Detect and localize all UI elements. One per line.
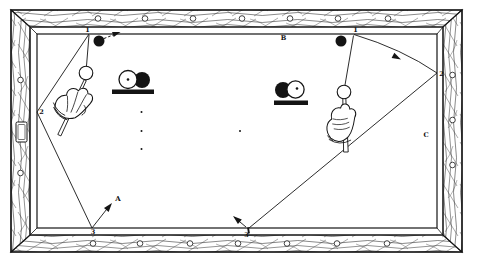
rail-sight xyxy=(187,241,193,247)
rail-sight xyxy=(287,16,293,22)
rail-sight xyxy=(190,16,196,22)
label-left-point-2: 2 xyxy=(39,108,44,116)
object-ball-left xyxy=(94,36,105,47)
rail-sight xyxy=(450,117,456,123)
label-left-point-3: 3 xyxy=(91,228,96,236)
curve-line-1-to-2 xyxy=(354,35,437,74)
rail-nameplate xyxy=(16,122,27,142)
rail-sight xyxy=(90,241,96,247)
frame-outer-edge xyxy=(11,10,462,252)
label-right-point-2: 2 xyxy=(439,70,444,78)
ball-contact-inset-right xyxy=(274,81,308,105)
billiards-diagram-page: 1 2 3 A B 1 2 3 C xyxy=(0,0,479,264)
spot-dot xyxy=(141,130,143,132)
label-target-A: A xyxy=(114,194,121,203)
rail-sight xyxy=(450,162,456,168)
right-rail xyxy=(443,10,462,252)
rail-sight xyxy=(335,16,341,22)
rail-sight xyxy=(235,241,241,247)
rail-sight xyxy=(385,16,391,22)
bridge-hand-left-icon xyxy=(49,79,95,126)
table-spots xyxy=(141,111,242,150)
inset-shelf xyxy=(274,101,308,106)
arrowhead xyxy=(392,53,403,62)
rail-sight xyxy=(384,241,390,247)
cue-ball-right xyxy=(337,85,351,99)
label-side-C: C xyxy=(423,131,428,139)
shot-line-cueball-to-cushion xyxy=(345,36,354,86)
label-right-point-3: 3 xyxy=(244,231,249,239)
label-right-point-1: 1 xyxy=(353,26,358,34)
diagram-labels: 1 2 3 A B 1 2 3 C xyxy=(39,26,444,239)
billiard-table-figure: 1 2 3 A B 1 2 3 C xyxy=(0,0,479,264)
rail-sight xyxy=(18,77,24,83)
inset-shelf xyxy=(112,90,154,95)
rail-sight xyxy=(284,241,290,247)
top-rail xyxy=(11,10,462,27)
cushion-corner-miters xyxy=(30,27,443,235)
object-ball-right xyxy=(336,36,347,47)
cue-ball-left xyxy=(79,66,93,80)
bridge-hand-right-icon xyxy=(324,103,358,145)
spot-dot xyxy=(239,130,241,132)
rail-sight xyxy=(142,16,148,22)
rail-sight xyxy=(18,170,24,176)
rail-sight xyxy=(450,72,456,78)
inset-white-ball-dot xyxy=(127,78,130,81)
rail-sight xyxy=(239,16,245,22)
label-shot-B: B xyxy=(281,34,287,42)
rail-sights xyxy=(16,16,455,247)
cushion-band xyxy=(30,27,443,235)
trajectory-left-shot xyxy=(37,30,121,228)
rebound-line-2-to-3 xyxy=(37,112,92,228)
spot-dot xyxy=(141,111,143,113)
balls xyxy=(79,36,351,99)
arrowhead xyxy=(112,30,121,37)
table-frame xyxy=(11,10,462,252)
rail-sight xyxy=(334,241,340,247)
ball-contact-inset-left xyxy=(112,71,154,95)
rail-sight xyxy=(95,16,101,22)
inset-white-ball xyxy=(287,81,304,98)
label-left-point-1: 1 xyxy=(85,26,90,34)
rail-sight xyxy=(137,241,143,247)
inset-white-ball-dot xyxy=(296,87,299,90)
spot-dot xyxy=(141,148,143,150)
